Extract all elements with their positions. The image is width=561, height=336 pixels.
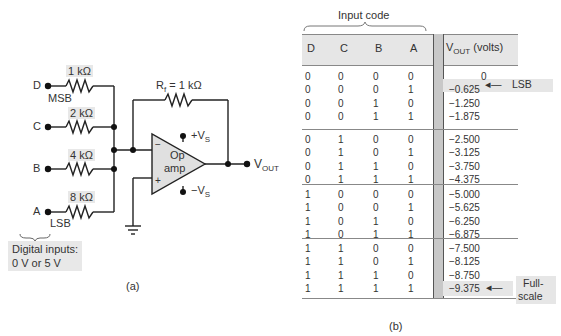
bit-cell-b: 0 bbox=[373, 134, 379, 145]
input-code-brace bbox=[302, 22, 428, 32]
bit-cell-c: 1 bbox=[338, 134, 344, 145]
bit-cell-c: 0 bbox=[338, 216, 344, 227]
rf-rest: = 1 kΩ bbox=[166, 79, 201, 91]
bit-cell-c: 1 bbox=[338, 283, 344, 294]
bit-cell-d: 1 bbox=[305, 202, 311, 213]
bit-cell-b: 1 bbox=[373, 216, 379, 227]
vout-header-sub: OUT bbox=[453, 47, 470, 56]
bit-cell-d: 0 bbox=[305, 147, 311, 158]
bit-cell-c: 1 bbox=[338, 174, 344, 185]
lsb-arrow: ◂— bbox=[485, 78, 502, 90]
bit-cell-c: 0 bbox=[338, 229, 344, 240]
bit-cell-d: 1 bbox=[305, 256, 311, 267]
noninverting-input-sign: + bbox=[155, 175, 161, 186]
vout-cell: −8.750 bbox=[449, 270, 480, 281]
bit-cell-c: 0 bbox=[338, 111, 344, 122]
bit-cell-a: 1 bbox=[408, 147, 414, 158]
circuit-wires bbox=[0, 0, 290, 336]
vout-cell: −3.750 bbox=[449, 161, 480, 172]
vout-cell: −2.500 bbox=[449, 134, 480, 145]
bit-cell-b: 0 bbox=[373, 256, 379, 267]
rf-main: R bbox=[156, 79, 164, 91]
vout-sub: OUT bbox=[262, 164, 279, 173]
fullscale-annotation-line2: scale bbox=[518, 290, 543, 302]
vout-cell: −1.875 bbox=[449, 111, 480, 122]
vout-cell: −3.125 bbox=[449, 147, 480, 158]
bit-cell-d: 0 bbox=[305, 134, 311, 145]
bit-cell-b: 1 bbox=[373, 283, 379, 294]
bit-cell-c: 1 bbox=[338, 243, 344, 254]
group-separator bbox=[302, 129, 518, 130]
bit-cell-b: 1 bbox=[373, 174, 379, 185]
bit-cell-a: 0 bbox=[408, 270, 414, 281]
bit-cell-a: 0 bbox=[408, 243, 414, 254]
bit-cell-b: 1 bbox=[373, 111, 379, 122]
lsb-label: LSB bbox=[50, 217, 71, 229]
resistor-c-value: 2 kΩ bbox=[68, 107, 95, 119]
table-bottom-border bbox=[302, 298, 518, 299]
bit-cell-a: 1 bbox=[408, 202, 414, 213]
bit-cell-a: 0 bbox=[408, 216, 414, 227]
vout-cell: −8.125 bbox=[449, 256, 480, 267]
neg-supply-sub: S bbox=[205, 190, 210, 199]
bit-cell-c: 0 bbox=[338, 189, 344, 200]
bit-cell-c: 1 bbox=[338, 256, 344, 267]
bit-cell-d: 1 bbox=[305, 283, 311, 294]
input-label-c: C bbox=[33, 120, 41, 132]
bit-cell-b: 0 bbox=[373, 71, 379, 82]
bit-cell-b: 0 bbox=[373, 147, 379, 158]
vout-cell: −7.500 bbox=[449, 243, 480, 254]
vout-main: V bbox=[254, 157, 262, 171]
pos-supply-sub: S bbox=[205, 135, 210, 144]
bit-cell-a: 0 bbox=[408, 71, 414, 82]
bit-cell-a: 1 bbox=[408, 111, 414, 122]
circuit-diagram: D C B A 1 kΩ 2 kΩ 4 kΩ 8 kΩ MSB LSB Rf =… bbox=[0, 0, 290, 336]
input-label-a: A bbox=[33, 205, 40, 217]
vout-cell: −0.625 bbox=[449, 84, 480, 95]
vout-cell: −6.250 bbox=[449, 216, 480, 227]
bit-cell-d: 0 bbox=[305, 71, 311, 82]
header-d: D bbox=[307, 42, 315, 54]
digital-inputs-line2: 0 V or 5 V bbox=[12, 256, 78, 270]
vout-cell: −9.375 bbox=[449, 283, 480, 294]
opamp-label-line2: amp bbox=[164, 162, 185, 174]
bit-cell-b: 1 bbox=[373, 229, 379, 240]
vout-cell: −4.375 bbox=[449, 174, 480, 185]
bit-cell-a: 0 bbox=[408, 161, 414, 172]
bit-cell-a: 1 bbox=[408, 84, 414, 95]
header-a: A bbox=[410, 42, 417, 54]
vout-cell: −6.875 bbox=[449, 229, 480, 240]
bit-cell-b: 1 bbox=[373, 98, 379, 109]
bit-cell-d: 0 bbox=[305, 174, 311, 185]
bit-cell-d: 1 bbox=[305, 243, 311, 254]
opamp-label-line1: Op bbox=[170, 149, 185, 161]
resistor-a-value: 8 kΩ bbox=[68, 191, 95, 203]
bit-cell-c: 0 bbox=[338, 202, 344, 213]
resistor-d-value: 1 kΩ bbox=[66, 65, 93, 77]
vout-header-rest: (volts) bbox=[470, 41, 503, 53]
bit-cell-c: 1 bbox=[338, 161, 344, 172]
caption-a: (a) bbox=[126, 280, 139, 292]
resistor-b-value: 4 kΩ bbox=[68, 149, 95, 161]
bit-cell-b: 0 bbox=[373, 189, 379, 200]
header-c: C bbox=[340, 42, 348, 54]
bit-cell-d: 1 bbox=[305, 229, 311, 240]
input-label-d: D bbox=[33, 79, 41, 91]
inverting-input-sign: − bbox=[155, 139, 161, 150]
bit-cell-a: 1 bbox=[408, 256, 414, 267]
bit-cell-c: 1 bbox=[338, 147, 344, 158]
bit-cell-b: 1 bbox=[373, 270, 379, 281]
bit-cell-b: 0 bbox=[373, 202, 379, 213]
feedback-resistor-label: Rf = 1 kΩ bbox=[156, 79, 202, 94]
bit-cell-a: 0 bbox=[408, 98, 414, 109]
bit-cell-d: 1 bbox=[305, 189, 311, 200]
input-label-b: B bbox=[33, 162, 40, 174]
input-code-label: Input code bbox=[338, 9, 389, 21]
bit-cell-a: 0 bbox=[408, 189, 414, 200]
bit-cell-d: 0 bbox=[305, 98, 311, 109]
bit-cell-c: 0 bbox=[338, 98, 344, 109]
bit-cell-b: 1 bbox=[373, 161, 379, 172]
caption-b: (b) bbox=[389, 320, 402, 332]
fullscale-annotation-line1: Full- bbox=[523, 277, 543, 289]
bit-cell-a: 1 bbox=[408, 229, 414, 240]
